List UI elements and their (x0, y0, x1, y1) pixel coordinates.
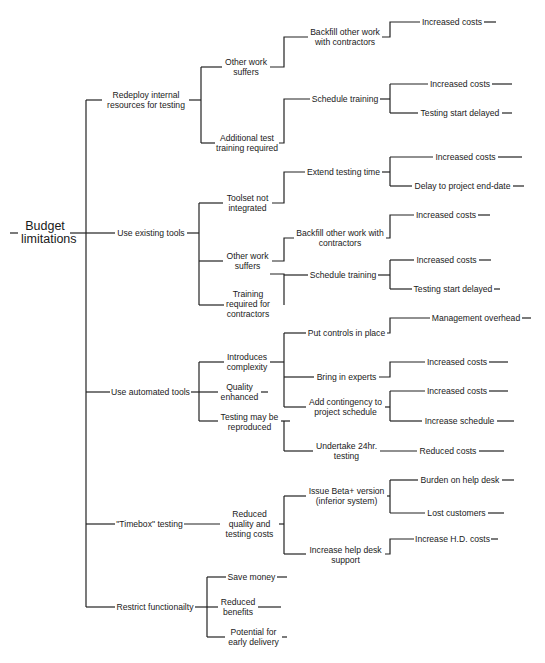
node-label: Potential for (226, 627, 281, 637)
node-label: Schedule training (311, 94, 379, 104)
node-add-contingency-to-schedule: Add contingency to project schedule (306, 397, 385, 417)
node-increase-schedule: Increase schedule (422, 416, 497, 426)
node-increased-costs: Increased costs (428, 79, 492, 89)
node-label: Use automated tools (111, 387, 190, 397)
node-issue-beta-version: Issue Beta+ version (inferior system) (306, 486, 387, 506)
node-label: Undertake 24hr. (314, 441, 379, 451)
root-node-budget-limitations: Budget limitations (20, 220, 70, 246)
node-label: Increased costs (415, 255, 478, 265)
root-label-line2: limitations (21, 233, 69, 246)
node-label: training required (216, 143, 278, 153)
node-label: Increased costs (415, 210, 477, 220)
node-label: Redeploy internal (104, 90, 188, 100)
node-reduced-quality-and-testing-costs: Reduced quality and testing costs (220, 509, 279, 539)
node-bring-in-experts: Bring in experts (314, 372, 379, 382)
node-label: Additional test (216, 133, 278, 143)
node-label: quality and (221, 519, 278, 529)
node-toolset-not-integrated: Toolset not integrated (223, 193, 272, 213)
node-save-money: Save money (226, 572, 277, 582)
node-quality-enhanced: Quality enhanced (218, 382, 261, 402)
node-increased-costs: Increased costs (425, 357, 489, 367)
node-testing-may-be-reproduced: Testing may be reproduced (218, 412, 281, 432)
node-label: Quality (219, 382, 260, 392)
node-label: testing (314, 451, 379, 461)
node-label: suffers (224, 261, 271, 271)
node-management-overhead: Management overhead (430, 313, 522, 323)
node-increase-help-desk-support: Increase help desk support (306, 545, 385, 565)
node-label: Increased costs (426, 357, 488, 367)
node-increased-costs: Increased costs (420, 17, 484, 27)
node-label: (inferior system) (307, 496, 386, 506)
node-label: Increased costs (429, 79, 491, 89)
node-undertake-24hr-testing: Undertake 24hr. testing (313, 441, 380, 461)
node-increased-costs: Increased costs (425, 386, 489, 396)
node-restrict-functionality: Restrict functionailty (115, 602, 195, 612)
node-label: Extend testing time (306, 167, 381, 177)
node-schedule-training: Schedule training (310, 94, 380, 104)
node-increased-costs: Increased costs (414, 210, 478, 220)
node-lost-customers: Lost customers (425, 508, 488, 518)
node-label: Increase schedule (423, 416, 496, 426)
node-increase-hd-costs: Increase H.D. costs (414, 534, 491, 544)
node-extend-testing-time: Extend testing time (305, 167, 382, 177)
node-other-work-suffers: Other work suffers (222, 57, 270, 77)
node-label: project schedule (307, 407, 384, 417)
node-label: integrated (224, 203, 271, 213)
node-label: Testing start delayed (419, 108, 501, 118)
node-use-automated-tools: Use automated tools (110, 387, 191, 397)
node-testing-start-delayed: Testing start delayed (412, 284, 494, 294)
connector-lines (0, 0, 545, 663)
node-label: benefits (219, 607, 257, 617)
node-label: Put controls in place (307, 328, 386, 338)
node-label: required for (225, 299, 271, 309)
node-label: Use existing tools (116, 228, 186, 238)
node-other-work-suffers: Other work suffers (223, 251, 272, 271)
node-label: Backfill other work (309, 27, 381, 37)
node-label: early delivery (226, 637, 281, 647)
node-label: Reduced (219, 597, 257, 607)
node-label: Burden on help desk (419, 475, 501, 485)
node-schedule-training: Schedule training (308, 270, 378, 280)
node-label: Increased costs (421, 17, 483, 27)
node-increased-costs: Increased costs (433, 152, 498, 162)
node-put-controls-in-place: Put controls in place (306, 328, 387, 338)
node-label: Delay to project end-date (413, 181, 512, 191)
node-increased-costs: Increased costs (414, 255, 479, 265)
node-backfill-other-work-with-contractors: Backfill other work with contractors (294, 228, 386, 248)
node-label: Introduces (225, 352, 269, 362)
node-label: with contractors (309, 37, 381, 47)
node-label: complexity (225, 362, 269, 372)
budget-limitations-tree-diagram: Budget limitations Redeploy internal res… (0, 0, 545, 663)
node-label: Schedule training (309, 270, 377, 280)
node-potential-for-early-delivery: Potential for early delivery (225, 627, 282, 647)
node-use-existing-tools: Use existing tools (115, 228, 187, 238)
node-reduced-costs: Reduced costs (417, 446, 479, 456)
node-reduced-benefits: Reduced benefits (218, 597, 258, 617)
node-label: Increased costs (426, 386, 488, 396)
node-label: support (307, 555, 384, 565)
node-testing-start-delayed: Testing start delayed (418, 108, 502, 118)
node-label: testing costs (221, 529, 278, 539)
node-label: Lost customers (426, 508, 487, 518)
node-label: contractors (295, 238, 385, 248)
node-label: Other work (224, 251, 271, 261)
node-label: suffers (223, 67, 269, 77)
node-label: Bring in experts (315, 372, 378, 382)
node-label: Add contingency to (307, 397, 384, 407)
node-label: Reduced costs (418, 446, 478, 456)
node-label: Save money (227, 572, 276, 582)
node-training-required-for-contractors: Training required for contractors (224, 289, 272, 319)
node-label: enhanced (219, 392, 260, 402)
node-backfill-other-work: Backfill other work with contractors (308, 27, 382, 47)
node-label: Increased costs (434, 152, 497, 162)
node-label: Toolset not (224, 193, 271, 203)
node-additional-test-training: Additional test training required (215, 133, 279, 153)
node-timebox-testing: "Timebox" testing (115, 519, 184, 529)
node-label: Testing may be (219, 412, 280, 422)
node-label: Backfill other work with (295, 228, 385, 238)
node-label: Testing start delayed (413, 284, 493, 294)
node-label: Increase help desk (307, 545, 384, 555)
node-label: Restrict functionailty (116, 602, 194, 612)
node-label: Increase H.D. costs (415, 534, 490, 544)
node-burden-on-help-desk: Burden on help desk (418, 475, 502, 485)
